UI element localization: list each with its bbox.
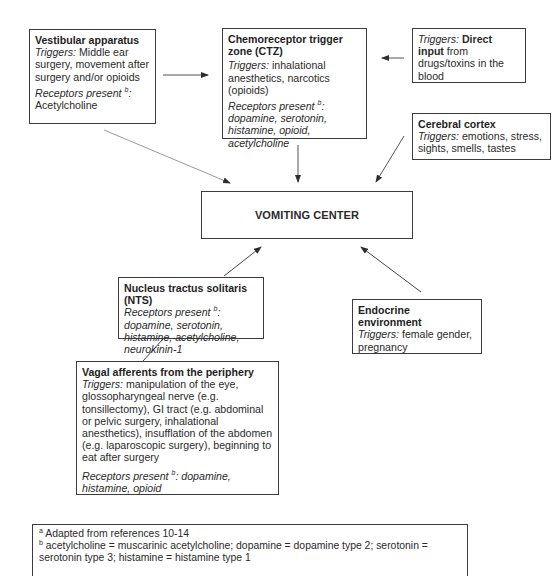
endocrine-triggers-label: Triggers:	[358, 328, 399, 340]
nts-receptors-label: Receptors present	[124, 306, 214, 318]
ctz-triggers-label: Triggers:	[228, 59, 269, 71]
arrow-cortex-to-vomiting-center	[376, 136, 404, 182]
ctz-box: Chemoreceptor trigger zone (CTZ) Trigger…	[222, 28, 367, 139]
ctz-receptors-label: Receptors present	[228, 100, 318, 112]
arrow-vestibular-to-vomiting-center	[104, 130, 230, 183]
nts-title: Nucleus tractus solitaris (NTS)	[124, 282, 258, 306]
vomiting-center-box: VOMITING CENTER	[201, 191, 413, 239]
vestibular-receptors-label: Receptors present	[35, 87, 125, 99]
ctz-title: Chemoreceptor trigger zone (CTZ)	[228, 33, 361, 57]
direct-input-box: Triggers: Direct input from drugs/toxins…	[412, 28, 526, 83]
footnote-a-text: Adapted from references 10-14	[43, 528, 189, 539]
nts-box: Nucleus tractus solitaris (NTS) Receptor…	[118, 277, 264, 339]
vagal-triggers: manipulation of the eye, glossopharyngea…	[82, 378, 272, 463]
cerebral-cortex-triggers-label: Triggers:	[418, 130, 459, 142]
cerebral-cortex-box: Cerebral cortex Triggers: emotions, stre…	[412, 113, 551, 160]
vagal-receptors-label: Receptors present	[82, 470, 172, 482]
footnotes-box: a Adapted from references 10-14 b acetyl…	[32, 524, 468, 576]
footnote-a: a Adapted from references 10-14	[39, 528, 461, 540]
cerebral-cortex-title: Cerebral cortex	[418, 118, 545, 130]
arrow-nts-to-vomiting-center	[224, 247, 261, 276]
endocrine-environment-box: Endocrine environment Triggers: female g…	[352, 299, 482, 354]
vestibular-receptors: Acetylcholine	[35, 99, 97, 111]
direct-input-triggers-label: Triggers:	[418, 33, 459, 45]
vestibular-triggers-label: Triggers:	[35, 46, 76, 58]
vagal-afferents-box: Vagal afferents from the periphery Trigg…	[76, 361, 279, 495]
footnote-b: b acetylcholine = muscarinic acetylcholi…	[39, 540, 461, 564]
footnote-b-text: acetylcholine = muscarinic acetylcholine…	[39, 540, 428, 563]
vestibular-title: Vestibular apparatus	[35, 34, 150, 46]
arrow-endocrine-to-vomiting-center	[361, 247, 421, 292]
vomiting-center-title: VOMITING CENTER	[202, 192, 412, 238]
vagal-title: Vagal afferents from the periphery	[82, 366, 273, 378]
vagal-triggers-label: Triggers:	[82, 378, 123, 390]
colon: :	[128, 87, 131, 99]
endocrine-title: Endocrine environment	[358, 304, 476, 328]
vestibular-apparatus-box: Vestibular apparatus Triggers: Middle ea…	[29, 29, 156, 124]
